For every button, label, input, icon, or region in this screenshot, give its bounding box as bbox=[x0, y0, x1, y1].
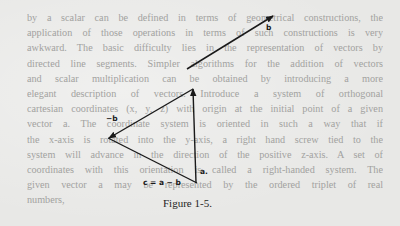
vector-neg-b-arrow bbox=[109, 89, 193, 138]
label-c: c = a − b bbox=[143, 178, 181, 187]
vector-diagram bbox=[0, 0, 400, 226]
vector-figure: b −b a. c = a − b bbox=[0, 0, 400, 226]
label-neg-b: −b bbox=[106, 114, 118, 123]
label-b: b bbox=[266, 23, 271, 32]
vector-a-arrow bbox=[193, 89, 196, 183]
vector-c-line bbox=[108, 138, 197, 183]
document-page: by a scalar can be defined in terms of g… bbox=[0, 0, 400, 226]
vector-b-arrow bbox=[187, 16, 273, 69]
label-a: a. bbox=[200, 167, 208, 176]
figure-caption: Figure 1-5. bbox=[163, 197, 212, 209]
